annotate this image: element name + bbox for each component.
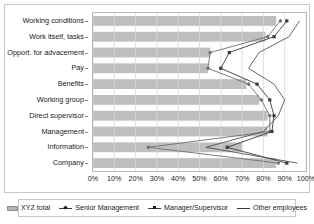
plot-area [92, 12, 307, 172]
legend-item-1[interactable]: Senior Management [59, 204, 139, 212]
marker-1-9 [285, 162, 288, 165]
legend-label-2: Manager/Supervisor [164, 204, 228, 212]
x-tick-label-9: 90% [277, 174, 291, 183]
marker-1-7 [270, 130, 273, 133]
category-label-6: Direct supervisor [29, 112, 84, 120]
category-label-9: Company [53, 159, 84, 167]
bar-2 [93, 48, 210, 58]
category-tick-2 [85, 53, 88, 54]
marker-0-6 [268, 114, 272, 118]
category-axis: Working conditionsWork itself, tasksOppo… [0, 12, 88, 172]
x-tick-label-5: 50% [192, 174, 206, 183]
legend-label-3: Other employees [253, 204, 307, 212]
legend-marker-diamond-icon [59, 205, 72, 212]
bar-0 [93, 16, 276, 26]
bar-3 [93, 63, 208, 73]
category-tick-8 [85, 147, 88, 148]
marker-1-8 [226, 146, 229, 149]
x-tick-label-10: 100% [297, 174, 314, 183]
category-label-8: Information [47, 143, 84, 151]
line-series-0 [148, 21, 280, 163]
legend-label-1: Senior Management [75, 204, 139, 212]
category-label-0: Working conditions [22, 17, 84, 25]
category-tick-4 [85, 84, 88, 85]
category-tick-1 [85, 37, 88, 38]
x-tick-label-2: 20% [128, 174, 142, 183]
legend-marker-none-icon [237, 205, 250, 212]
category-label-1: Work itself, tasks [29, 33, 84, 41]
category-label-7: Management [41, 128, 84, 136]
marker-1-5 [268, 98, 271, 101]
x-tick-label-3: 30% [150, 174, 164, 183]
marker-1-1 [272, 35, 275, 38]
marker-1-6 [272, 114, 275, 117]
marker-1-4 [255, 83, 258, 86]
line-series-1 [221, 21, 287, 163]
x-tick-label-8: 80% [256, 174, 270, 183]
category-tick-9 [85, 163, 88, 164]
x-axis-labels: 0%10%20%30%40%50%60%70%80%90%100% [92, 174, 307, 186]
category-tick-7 [85, 132, 88, 133]
x-tick-label-1: 10% [107, 174, 121, 183]
legend-item-2[interactable]: Manager/Supervisor [148, 204, 228, 212]
marker-1-3 [219, 67, 222, 70]
category-label-2: Opport. for advacement [7, 49, 84, 57]
chart-plot-svg [93, 13, 306, 171]
bar-4 [93, 79, 246, 89]
category-label-5: Working group [37, 96, 84, 104]
chart-legend: XYZ totalSenior ManagementManager/Superv… [18, 199, 296, 217]
x-tick-label-6: 60% [214, 174, 228, 183]
legend-symbol-icon [153, 206, 156, 209]
category-tick-5 [85, 100, 88, 101]
legend-item-0[interactable]: XYZ total [7, 204, 50, 212]
category-tick-3 [85, 68, 88, 69]
line-series-2 [206, 21, 300, 163]
legend-swatch-bar-icon [7, 206, 18, 211]
legend-line-icon [237, 208, 250, 209]
legend-label-0: XYZ total [21, 204, 50, 212]
marker-1-2 [228, 51, 231, 54]
category-label-4: Benefits [58, 80, 84, 88]
bar-1 [93, 32, 266, 42]
chart-container: Working conditionsWork itself, tasksOppo… [0, 0, 314, 224]
x-tick-label-0: 0% [88, 174, 98, 183]
marker-1-0 [285, 19, 288, 22]
x-tick-label-4: 40% [171, 174, 185, 183]
legend-item-3[interactable]: Other employees [237, 204, 307, 212]
category-label-3: Pay [71, 64, 84, 72]
category-tick-0 [85, 21, 88, 22]
bar-5 [93, 95, 259, 105]
category-tick-6 [85, 116, 88, 117]
bar-6 [93, 111, 268, 121]
x-tick-label-7: 70% [235, 174, 249, 183]
legend-marker-square-icon [148, 205, 161, 212]
